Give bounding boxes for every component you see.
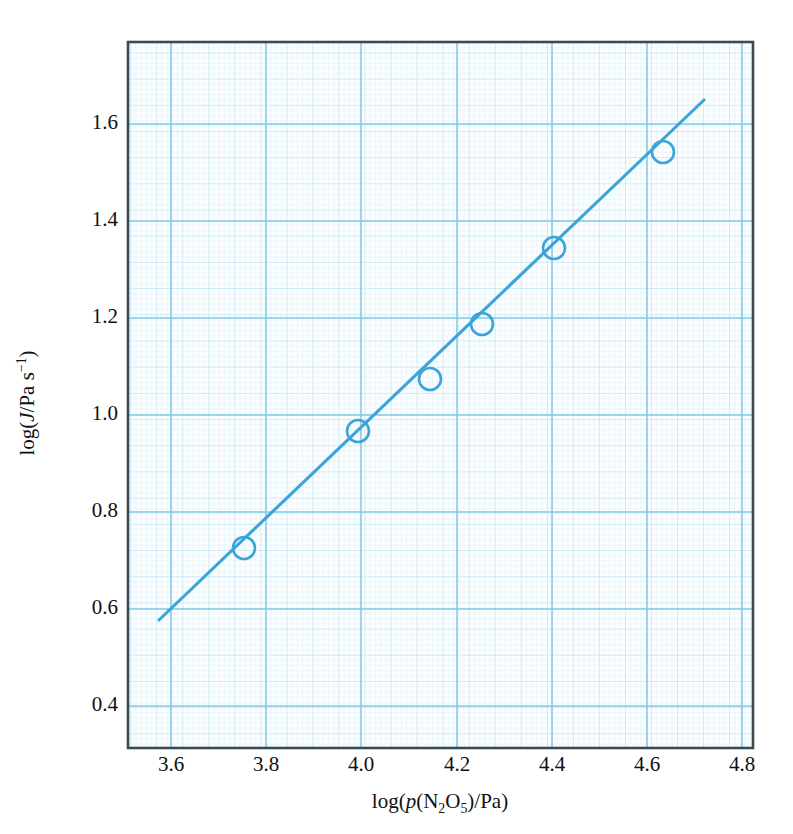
x-tick-label: 4.8 bbox=[712, 752, 772, 777]
y-tick-label: 0.4 bbox=[58, 692, 118, 717]
grid-background bbox=[128, 42, 753, 748]
x-tick-label: 3.8 bbox=[236, 752, 296, 777]
x-tick-label: 3.6 bbox=[141, 752, 201, 777]
y-tick-label: 1.4 bbox=[58, 207, 118, 232]
chart-figure: log(J/Pa s−1) log(p(N2O5)/Pa) bbox=[0, 0, 793, 834]
x-tick-label: 4.4 bbox=[522, 752, 582, 777]
y-tick-label: 1.0 bbox=[58, 401, 118, 426]
y-tick-label: 1.2 bbox=[58, 304, 118, 329]
x-tick-label: 4.6 bbox=[617, 752, 677, 777]
x-tick-label: 4.2 bbox=[427, 752, 487, 777]
y-tick-label: 0.8 bbox=[58, 498, 118, 523]
x-tick-label: 4.0 bbox=[331, 752, 391, 777]
y-tick-label: 0.6 bbox=[58, 595, 118, 620]
plot-canvas bbox=[0, 0, 793, 834]
y-tick-label: 1.6 bbox=[58, 110, 118, 135]
